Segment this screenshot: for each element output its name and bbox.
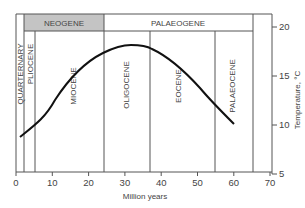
x-axis-label: Million years	[123, 192, 167, 201]
svg-text:10: 10	[47, 177, 58, 188]
temperature-chart: 0 10 20 30 40 50 60 70 Million years 20 …	[0, 0, 305, 208]
svg-text:0: 0	[13, 177, 18, 188]
svg-text:PALAEOCENE: PALAEOCENE	[228, 59, 237, 113]
svg-text:OLIGOCENE: OLIGOCENE	[122, 61, 131, 109]
svg-text:15: 15	[279, 70, 290, 81]
svg-text:30: 30	[120, 177, 131, 188]
svg-text:20: 20	[279, 21, 290, 32]
svg-text:60: 60	[229, 177, 240, 188]
svg-text:EOCENE: EOCENE	[174, 69, 183, 103]
palaeogene-label: PALAEOGENE	[151, 19, 205, 28]
y-axis-label: Temperature, °C	[293, 71, 302, 130]
neogene-label: NEOGENE	[44, 19, 84, 28]
svg-text:20: 20	[83, 177, 94, 188]
y-axis-ticks	[272, 27, 277, 174]
x-axis-ticks	[16, 172, 270, 176]
epoch-labels: QUARTERNARY PLIOCENE MIOCENE OLIGOCENE E…	[16, 43, 237, 113]
svg-text:40: 40	[156, 177, 167, 188]
svg-text:70: 70	[265, 177, 276, 188]
svg-text:QUARTERNARY: QUARTERNARY	[16, 43, 25, 105]
y-tick-labels: 20 15 10 5	[279, 21, 290, 179]
svg-text:5: 5	[279, 168, 284, 179]
svg-text:50: 50	[192, 177, 203, 188]
x-tick-labels: 0 10 20 30 40 50 60 70	[13, 177, 275, 188]
svg-text:PLIOCENE: PLIOCENE	[26, 44, 35, 84]
svg-text:10: 10	[279, 119, 290, 130]
